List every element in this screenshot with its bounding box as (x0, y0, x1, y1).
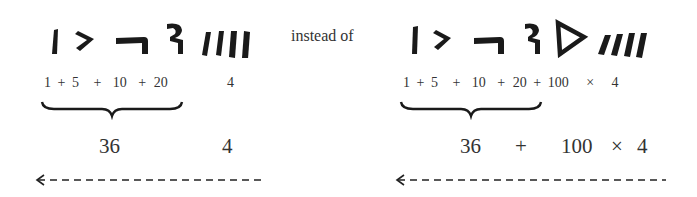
numeral-ten-icon (116, 37, 148, 54)
left-numeral-glyphs (44, 18, 264, 58)
numeral-one-icon (52, 29, 58, 54)
numeral-five-icon (433, 30, 451, 50)
term: 4 (612, 75, 619, 90)
operator: + (452, 75, 460, 90)
left-expression: 1 + 5 + 10 + 20 (44, 75, 168, 91)
term: 10 (113, 75, 127, 90)
term: 1 (44, 75, 51, 90)
term: 100 (548, 75, 569, 90)
right-direction-arrow-icon (394, 172, 670, 191)
right-brace-icon (399, 100, 544, 124)
left-sum: 36 (99, 134, 120, 159)
term: 5 (72, 75, 79, 90)
term: 5 (431, 75, 438, 90)
term: 10 (472, 75, 486, 90)
left-direction-arrow-icon (34, 172, 270, 191)
right-plus: + (515, 134, 527, 159)
term: 20 (154, 75, 168, 90)
left-multiplier-small: 4 (227, 75, 234, 91)
numeral-four-strokes-icon (598, 33, 647, 58)
numeral-one-icon (412, 26, 418, 54)
left-multiplier: 4 (222, 134, 233, 159)
term: 20 (513, 75, 527, 90)
right-hundred: 100 (561, 134, 593, 159)
right-multiplier: 4 (637, 134, 648, 159)
numeral-ten-icon (474, 37, 504, 54)
right-numeral-glyphs (400, 14, 690, 58)
left-brace-icon (40, 100, 185, 124)
right-expression: 1 + 5 + 10 + 20 + 100 × 4 (403, 75, 619, 91)
operator: + (138, 75, 146, 90)
operator: + (58, 75, 66, 90)
term: 1 (403, 75, 410, 90)
numeral-five-icon (75, 31, 94, 51)
operator: + (417, 75, 425, 90)
operator: × (586, 75, 594, 90)
numeral-twenty-icon (525, 24, 540, 54)
right-times: × (611, 134, 623, 159)
right-sum: 36 (460, 134, 481, 159)
operator: + (533, 75, 541, 90)
numeral-twenty-icon (167, 24, 183, 54)
numeral-four-strokes-icon (202, 31, 250, 58)
instead-of-label: instead of (291, 27, 354, 45)
numeral-hundred-icon (558, 23, 584, 54)
operator: + (93, 75, 101, 90)
operator: + (497, 75, 505, 90)
